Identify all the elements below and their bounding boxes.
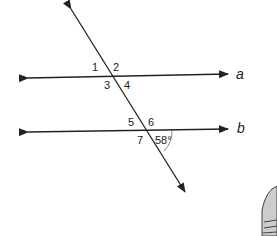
angle-5-label: 5	[128, 116, 134, 128]
line-a	[28, 74, 228, 78]
angle-3-label: 3	[104, 79, 110, 91]
diagram-canvas: a b 1 2 3 4 5 6 7 58°	[0, 0, 277, 236]
line-b-label: b	[237, 120, 245, 136]
angle-2-label: 2	[113, 61, 119, 73]
angle-6-label: 6	[148, 116, 154, 128]
angle-7-label: 7	[137, 134, 143, 146]
line-a-label: a	[236, 66, 244, 82]
angle-58-label: 58°	[155, 134, 172, 146]
transversal	[71, 9, 185, 192]
book-icon	[262, 186, 277, 236]
angle-1-label: 1	[92, 61, 98, 73]
angle-4-label: 4	[124, 79, 130, 91]
line-b	[28, 129, 228, 132]
